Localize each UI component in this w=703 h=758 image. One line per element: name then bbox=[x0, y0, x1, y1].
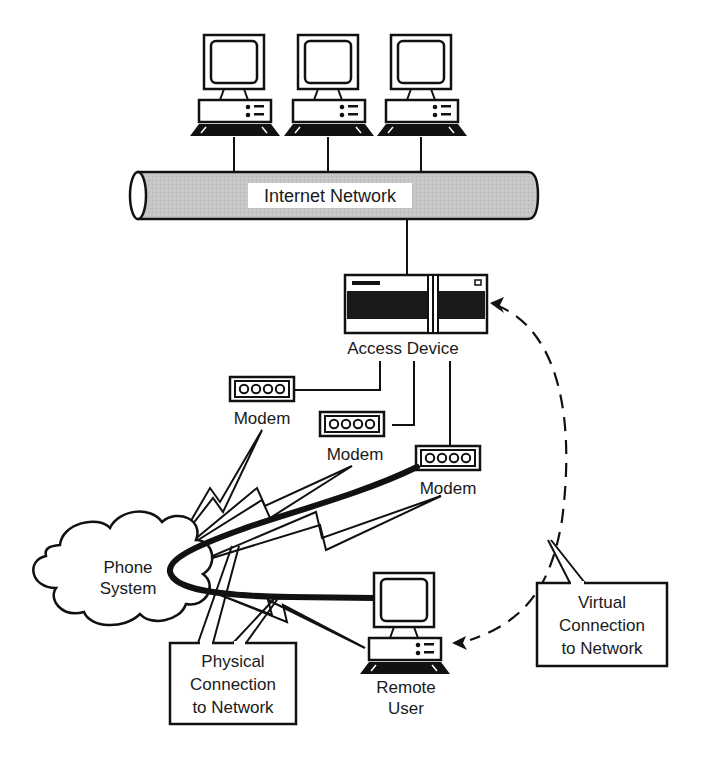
workstation-1 bbox=[190, 35, 280, 136]
arrowhead-icon bbox=[452, 636, 467, 650]
virtual-callout-line2: Connection bbox=[559, 616, 645, 635]
modem-2: Modem bbox=[320, 412, 384, 464]
virtual-callout-line3: to Network bbox=[561, 639, 643, 658]
modem-icon bbox=[416, 446, 480, 470]
remote-user-label-line2: User bbox=[388, 699, 424, 718]
modem-icon bbox=[230, 377, 294, 401]
physical-callout-line2: Connection bbox=[190, 675, 276, 694]
arrowhead-icon bbox=[490, 297, 504, 313]
computer-icon bbox=[284, 35, 374, 136]
modem-1: Modem bbox=[230, 377, 294, 428]
phone-system-label-line2: System bbox=[100, 579, 157, 598]
computer-icon bbox=[190, 35, 280, 136]
workstation-3 bbox=[377, 35, 467, 136]
modem-icon bbox=[320, 412, 384, 436]
access-device: Access Device bbox=[345, 275, 487, 358]
computer-icon bbox=[360, 573, 450, 674]
computer-icon bbox=[377, 35, 467, 136]
physical-callout-line1: Physical bbox=[201, 652, 264, 671]
phone-system-label-line1: Phone bbox=[103, 558, 152, 577]
modem-1-label: Modem bbox=[234, 409, 291, 428]
remote-user: Remote User bbox=[360, 573, 450, 718]
physical-callout-line3: to Network bbox=[192, 698, 274, 717]
virtual-connection-callout: Virtual Connection to Network bbox=[537, 540, 667, 666]
modem-2-label: Modem bbox=[327, 445, 384, 464]
remote-user-label-line1: Remote bbox=[376, 678, 436, 697]
phone-system: Phone System bbox=[33, 512, 212, 625]
modem-3: Modem bbox=[416, 446, 480, 498]
workstation-2 bbox=[284, 35, 374, 136]
access-device-label: Access Device bbox=[347, 339, 458, 358]
modem-3-label: Modem bbox=[420, 479, 477, 498]
virtual-callout-line1: Virtual bbox=[578, 593, 626, 612]
internet-network: Internet Network bbox=[130, 172, 538, 219]
internet-network-label: Internet Network bbox=[264, 186, 397, 206]
network-diagram: Internet Network Access Device Modem Mod… bbox=[0, 0, 703, 758]
